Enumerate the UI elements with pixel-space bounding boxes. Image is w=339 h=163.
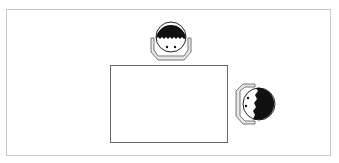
eye-left-top <box>166 46 168 48</box>
person-right <box>236 84 275 124</box>
person-top <box>151 22 191 60</box>
table <box>111 66 228 143</box>
seating-diagram <box>0 0 339 163</box>
eye-top-right <box>247 97 249 99</box>
eye-bottom-right <box>245 105 247 107</box>
eye-right-top <box>174 46 176 48</box>
